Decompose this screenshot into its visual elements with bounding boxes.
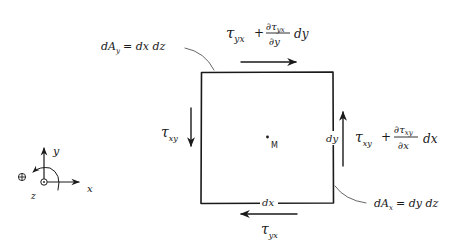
right-stress-label: τxy + ∂τxy ∂x dx bbox=[355, 124, 438, 151]
area-y-leader bbox=[185, 48, 214, 70]
svg-text:dAx= dy dz: dAx= dy dz bbox=[374, 197, 438, 212]
svg-text:+: + bbox=[254, 26, 264, 40]
svg-text:dx: dx bbox=[423, 132, 438, 146]
svg-text:dAy= dx dz: dAy= dx dz bbox=[101, 40, 165, 55]
svg-text:∂τyx: ∂τyx bbox=[266, 21, 285, 34]
x-axis-label: x bbox=[87, 183, 93, 194]
y-axis-label: y bbox=[52, 145, 60, 158]
width-label: dx bbox=[262, 197, 274, 208]
z-axis-label: z bbox=[30, 191, 36, 201]
positive-rotation-icon bbox=[18, 173, 25, 180]
coordinate-axes bbox=[18, 148, 79, 190]
svg-text:τxy: τxy bbox=[355, 129, 372, 148]
bottom-stress-label: τyx bbox=[261, 221, 278, 240]
svg-text:τyx: τyx bbox=[226, 24, 244, 44]
rotation-arrow bbox=[33, 168, 59, 191]
svg-text:+: + bbox=[381, 130, 391, 144]
shear-stress-diagram: M dx dy τyx + ∂τyx ∂y dy dAy= dx dz τxy bbox=[0, 0, 461, 252]
center-point bbox=[266, 136, 269, 139]
svg-text:∂τxy: ∂τxy bbox=[394, 124, 414, 137]
area-x-leader bbox=[335, 186, 366, 203]
center-label: M bbox=[271, 141, 278, 150]
area-y-label: dAy= dx dz bbox=[101, 40, 165, 55]
svg-text:∂y: ∂y bbox=[269, 36, 280, 47]
height-label: dy bbox=[326, 133, 338, 144]
top-stress-label: τyx + ∂τyx ∂y dy bbox=[226, 21, 309, 47]
svg-text:τxy: τxy bbox=[161, 124, 178, 143]
left-stress-label: τxy bbox=[161, 124, 178, 143]
svg-text:τyx: τyx bbox=[261, 221, 278, 240]
svg-text:∂x: ∂x bbox=[398, 140, 409, 151]
area-x-label: dAx= dy dz bbox=[374, 197, 438, 212]
svg-text:dy: dy bbox=[294, 27, 309, 41]
